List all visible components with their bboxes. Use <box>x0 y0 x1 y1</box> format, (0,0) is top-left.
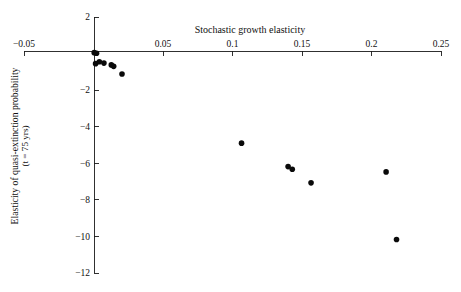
x-tick-label: −0.05 <box>13 39 35 49</box>
x-tick-label: 0.1 <box>227 39 239 49</box>
x-tick-labels-group: −0.050.050.10.150.20.25 <box>13 39 450 49</box>
scatter-plot-figure: −0.050.050.10.150.20.25 2−2−4−6−8−10−12 … <box>0 0 461 292</box>
data-point <box>308 180 314 186</box>
x-tick-label: 0.25 <box>433 39 450 49</box>
data-point <box>111 64 117 70</box>
x-tick-label: 0.05 <box>155 39 172 49</box>
y-tick-label: 2 <box>85 12 90 22</box>
y-tick-label: −10 <box>75 232 90 242</box>
x-tick-label: 0.2 <box>366 39 378 49</box>
data-point <box>289 167 295 173</box>
y-tick-label: −12 <box>75 268 90 278</box>
y-tick-label: −8 <box>80 195 90 205</box>
plot-canvas: −0.050.050.10.150.20.25 2−2−4−6−8−10−12 … <box>0 0 461 292</box>
y-tick-label: −6 <box>80 159 90 169</box>
data-point <box>94 50 100 56</box>
y-tick-labels-group: 2−2−4−6−8−10−12 <box>75 12 90 278</box>
data-point <box>101 60 107 66</box>
y-tick-label: −4 <box>80 122 90 132</box>
data-points-group <box>91 50 399 242</box>
data-point <box>383 169 389 175</box>
data-point <box>119 71 125 77</box>
x-tick-label: 0.15 <box>294 39 311 49</box>
data-point <box>239 140 245 146</box>
data-point <box>394 237 400 243</box>
y-tick-label: −2 <box>80 85 90 95</box>
x-axis-title: Stochastic growth elasticity <box>195 24 306 35</box>
